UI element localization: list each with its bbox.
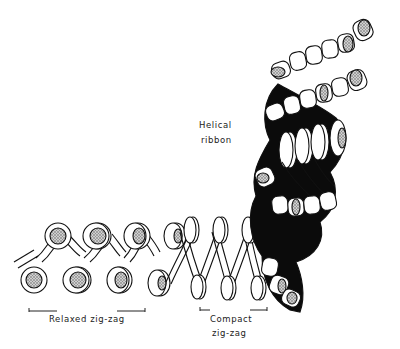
compact-bracket	[200, 307, 267, 311]
relaxed-bracket	[29, 308, 145, 312]
compact-zigzag-label-line1: Compact	[210, 313, 252, 325]
helical-ribbon-label-line2: ribbon	[201, 134, 232, 146]
helical-ribbon	[250, 17, 375, 312]
compact-zigzag-label-line2: zig-zag	[212, 327, 247, 339]
helical-ribbon-label-line1: Helical	[199, 119, 232, 131]
relaxed-zigzag-label: Relaxed zig-zag	[49, 313, 125, 325]
chromatin-diagram	[0, 0, 400, 349]
relaxed-nucleosomes	[21, 223, 186, 296]
